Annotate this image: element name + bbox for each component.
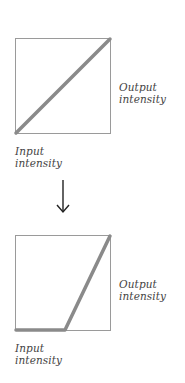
threshold-transfer-plot [15, 235, 111, 331]
output-intensity-label: Output intensity [119, 278, 166, 302]
threshold-curve [16, 236, 110, 330]
plot-frame [16, 236, 111, 331]
input-intensity-label: Input intensity [15, 342, 62, 366]
bottom-panel: Output intensity Input intensity [0, 0, 185, 383]
threshold-curve-graph [15, 235, 111, 331]
